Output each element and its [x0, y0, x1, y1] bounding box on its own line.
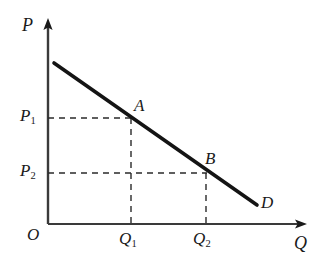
point-label-a: A: [134, 97, 144, 114]
p2-base: P: [20, 161, 30, 180]
origin-label: O: [27, 226, 39, 243]
p1-subscript: 1: [31, 115, 36, 126]
p2-subscript: 2: [31, 170, 36, 181]
q2-base: Q: [193, 229, 205, 248]
quantity-axis-label: Q: [294, 234, 307, 252]
point-label-b: B: [205, 150, 215, 167]
chart-canvas: [0, 0, 324, 274]
demand-curve-line: [54, 63, 257, 205]
quantity-tick-label-q2: Q2: [193, 230, 211, 247]
p1-base: P: [20, 106, 30, 125]
q1-base: Q: [119, 229, 131, 248]
price-tick-label-p1: P1: [20, 107, 36, 124]
price-axis-label: P: [22, 16, 33, 34]
q1-subscript: 1: [131, 238, 136, 249]
price-tick-label-p2: P2: [20, 162, 36, 179]
quantity-tick-label-q1: Q1: [119, 230, 137, 247]
demand-curve-figure: P Q O P1 P2 Q1 Q2 A B D: [0, 0, 324, 274]
demand-curve-label: D: [261, 194, 273, 211]
q2-subscript: 2: [205, 238, 210, 249]
